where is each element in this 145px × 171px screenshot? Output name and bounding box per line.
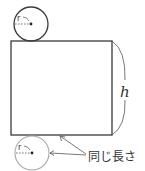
cylinder-net-diagram: r h r 同じ長さ xyxy=(0,0,145,171)
top-radius-pointer xyxy=(23,17,29,21)
bottom-center-dot xyxy=(31,152,34,155)
side-rectangle xyxy=(11,41,112,135)
top-center-dot xyxy=(30,23,33,26)
bottom-radius-pointer xyxy=(24,146,30,150)
top-circle: r xyxy=(14,7,48,41)
height-label: h xyxy=(120,83,130,101)
arrow-to-rectangle-edge xyxy=(60,136,86,154)
arrow-to-bottom-circle xyxy=(50,153,86,155)
top-radius-label: r xyxy=(17,14,21,23)
height-brace: h xyxy=(112,41,130,135)
bottom-radius-label: r xyxy=(18,143,22,152)
bottom-circle: r xyxy=(15,136,49,170)
same-length-arrows xyxy=(50,136,86,156)
same-length-label: 同じ長さ xyxy=(88,150,136,164)
